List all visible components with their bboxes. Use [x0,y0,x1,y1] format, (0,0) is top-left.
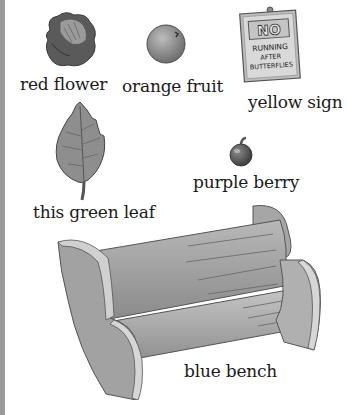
label-red-flower: red flower [20,74,107,94]
sign-illustration: NO RUNNING AFTER BUTTERFLIES [236,4,304,84]
flower-illustration [40,10,100,70]
sign-text-after: AFTER [260,52,282,61]
berry-icon [228,136,256,168]
leaf-illustration [52,100,107,202]
orange-fruit-icon [145,22,187,64]
sign-icon: NO RUNNING AFTER BUTTERFLIES [236,4,304,84]
label-purple-berry: purple berry [193,172,299,192]
sign-text-no: NO [257,21,282,39]
berry-illustration [228,136,256,168]
flower-icon [40,10,100,70]
label-blue-bench: blue bench [184,361,277,381]
leaf-icon [52,100,107,202]
page-edge-bar [0,0,5,415]
orange-fruit-illustration [145,22,187,64]
label-yellow-sign: yellow sign [248,92,343,112]
label-orange-fruit: orange fruit [122,76,223,96]
